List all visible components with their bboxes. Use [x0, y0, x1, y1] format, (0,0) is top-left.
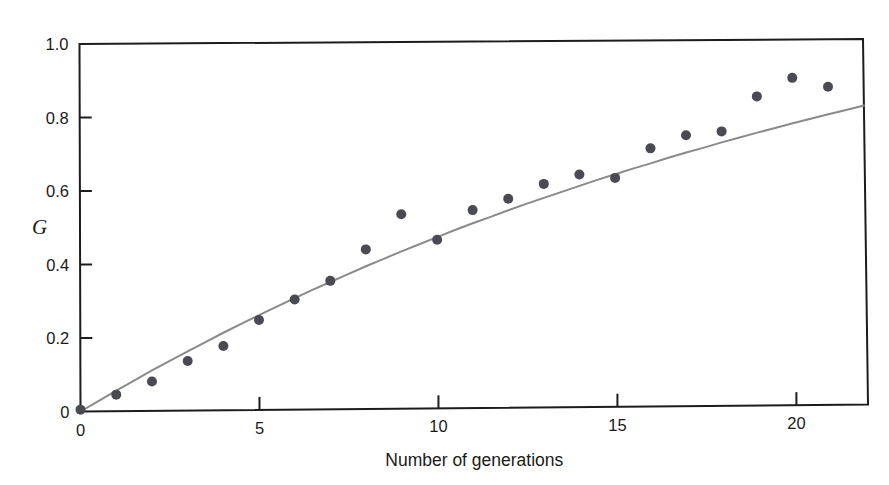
data-point-marker [396, 209, 406, 219]
data-point-marker [254, 315, 264, 325]
y-tick-label: 0.6 [46, 182, 69, 200]
data-point-marker [503, 194, 513, 204]
data-point-marker [361, 244, 371, 254]
x-tick-label: 5 [255, 419, 264, 437]
y-tick-label: 0.4 [46, 256, 69, 274]
scatter-plot: 00.20.40.60.81.0 05101520 G Number of ge… [0, 0, 889, 485]
x-tick-label: 15 [608, 416, 626, 434]
data-point-marker [325, 276, 335, 286]
y-tick-label: 0 [60, 403, 69, 421]
data-point-marker [610, 173, 620, 183]
y-axis-title: G [32, 215, 47, 239]
data-point-marker [574, 169, 584, 179]
y-tick-label: 0.8 [46, 109, 69, 127]
x-axis-title: Number of generations [385, 450, 563, 470]
x-tick-label: 0 [76, 421, 85, 439]
x-tick-label: 20 [787, 414, 805, 432]
data-point-marker [645, 143, 655, 153]
data-point-marker [468, 205, 478, 215]
data-point-marker [432, 235, 442, 245]
data-point-marker [111, 390, 121, 400]
data-point-marker [183, 356, 193, 366]
data-point-marker [752, 91, 762, 101]
data-point-marker [539, 179, 549, 189]
data-point-marker [681, 130, 691, 140]
x-tick-label: 10 [429, 417, 447, 435]
data-point-marker [147, 376, 157, 386]
data-point-marker [787, 73, 797, 83]
data-point-marker [717, 126, 727, 136]
data-point-marker [76, 405, 86, 415]
plot-background [0, 0, 889, 485]
data-point-marker [218, 341, 228, 351]
y-tick-label: 1.0 [46, 35, 69, 53]
figure-container: 00.20.40.60.81.0 05101520 G Number of ge… [0, 0, 889, 485]
data-point-marker [823, 82, 833, 92]
y-tick-label: 0.2 [46, 329, 69, 347]
data-point-marker [290, 295, 300, 305]
